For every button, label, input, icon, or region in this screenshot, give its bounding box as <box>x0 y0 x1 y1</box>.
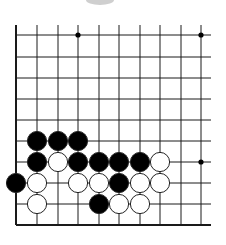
white-stone <box>27 173 46 192</box>
black-stone <box>68 131 87 150</box>
top-shadow-blob <box>86 0 114 5</box>
black-stone <box>6 173 25 192</box>
white-stone <box>27 194 46 213</box>
black-stone <box>48 131 67 150</box>
white-stone <box>109 194 128 213</box>
black-stone <box>130 152 149 171</box>
black-stone <box>27 152 46 171</box>
white-stone <box>89 173 108 192</box>
white-stone <box>48 152 67 171</box>
white-stone <box>150 173 169 192</box>
star-point-icon <box>198 159 203 164</box>
star-point-icon <box>198 32 203 37</box>
black-stone <box>109 173 128 192</box>
black-stone <box>89 194 108 213</box>
white-stone <box>130 173 149 192</box>
board-grid <box>16 25 211 225</box>
go-board <box>0 0 226 245</box>
black-stone <box>109 152 128 171</box>
black-stone <box>27 131 46 150</box>
white-stone <box>68 173 87 192</box>
black-stone <box>89 152 108 171</box>
star-point-icon <box>75 32 80 37</box>
white-stone <box>130 194 149 213</box>
stones-layer <box>6 131 169 213</box>
black-stone <box>68 152 87 171</box>
white-stone <box>150 152 169 171</box>
